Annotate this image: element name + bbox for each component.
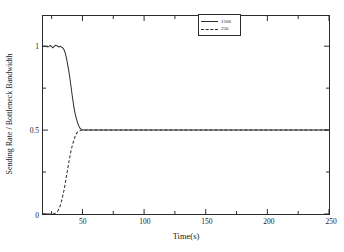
series-line	[43, 130, 329, 214]
series-group	[43, 45, 329, 214]
y-tick-label: 1	[35, 43, 39, 51]
tick-marks	[43, 16, 329, 214]
y-tick-label: 0	[35, 212, 39, 220]
x-tick-label: 250	[325, 218, 336, 226]
legend-line-swatch-dashed	[201, 26, 218, 32]
x-tick-label: 150	[201, 218, 212, 226]
curves-svg	[43, 16, 329, 214]
legend-label: 1500	[221, 19, 231, 24]
legend-line-swatch-solid	[201, 18, 218, 24]
plot-area: 00.51 50100150200250	[42, 15, 330, 215]
series-line	[43, 45, 329, 130]
legend-label: 256	[221, 26, 229, 31]
legend-item: 256	[201, 25, 238, 32]
x-axis-title: Time(s)	[42, 232, 330, 241]
x-tick-label: 100	[139, 218, 150, 226]
x-tick-label: 200	[263, 218, 274, 226]
chart-legend: 1500 256	[198, 14, 241, 36]
x-tick-label: 50	[79, 218, 87, 226]
y-tick-label: 0.5	[30, 128, 39, 136]
y-axis-title: Sending Rate / Bottleneck Bandwidth	[6, 29, 14, 199]
legend-item: 1500	[201, 18, 238, 25]
chart-figure: 00.51 50100150200250 1500 256 Time(s) Se…	[0, 0, 344, 252]
